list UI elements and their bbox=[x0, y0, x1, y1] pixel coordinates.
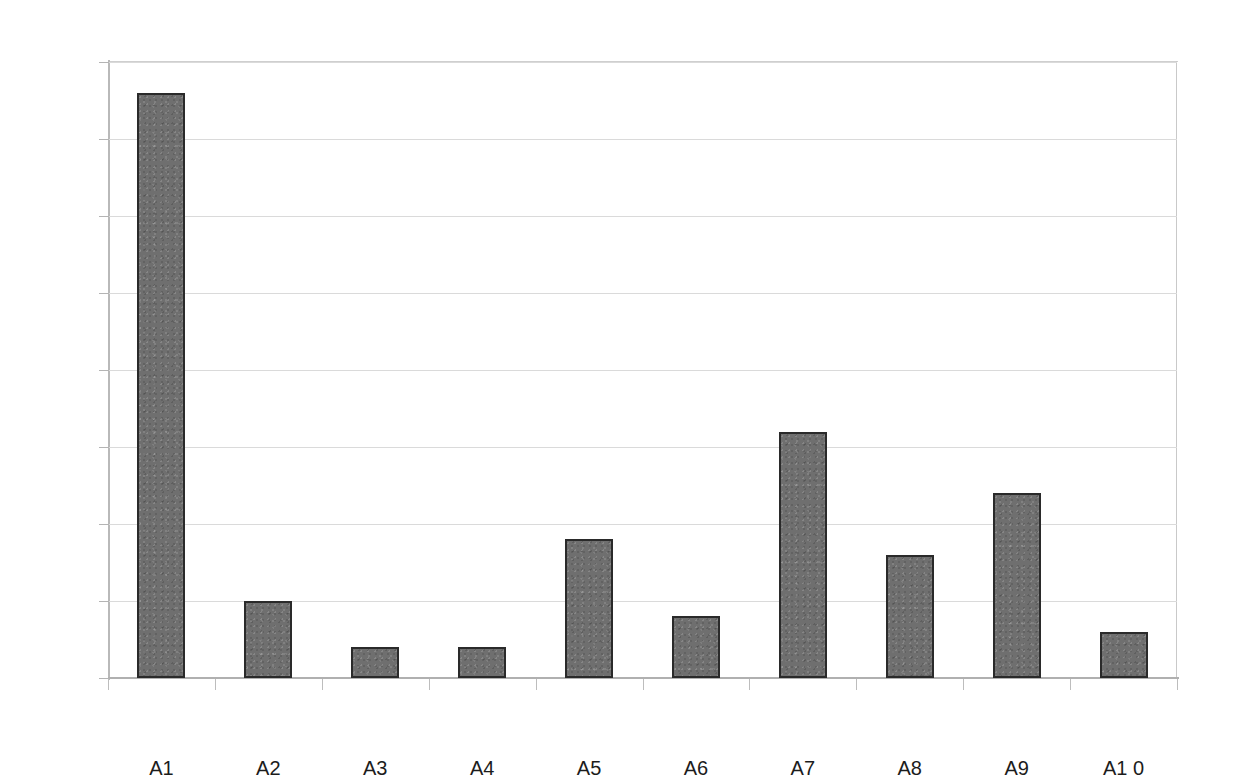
gridline bbox=[108, 370, 1177, 371]
bar bbox=[351, 647, 399, 678]
x-axis-tick bbox=[1177, 679, 1178, 690]
y-axis-tick bbox=[99, 447, 109, 448]
bar bbox=[458, 647, 506, 678]
y-axis-tick bbox=[99, 370, 109, 371]
x-axis-tick bbox=[215, 679, 216, 690]
x-axis-tick bbox=[536, 679, 537, 690]
gridline bbox=[108, 62, 1177, 63]
gridline bbox=[108, 139, 1177, 140]
x-axis-tick bbox=[108, 679, 109, 690]
x-axis-label: A5 bbox=[536, 758, 643, 778]
x-axis-label: A2 bbox=[215, 758, 322, 778]
x-axis-label: A8 bbox=[856, 758, 963, 778]
x-axis-label: A3 bbox=[322, 758, 429, 778]
bar bbox=[244, 601, 292, 678]
bar bbox=[1100, 632, 1148, 678]
x-axis-tick bbox=[322, 679, 323, 690]
y-axis-tick bbox=[99, 524, 109, 525]
x-axis-tick bbox=[429, 679, 430, 690]
y-axis-tick bbox=[99, 293, 109, 294]
x-axis-tick bbox=[643, 679, 644, 690]
plot-area: 0510152025303540A1A2A3A4A5A6A7A8A9A1 0 bbox=[108, 62, 1177, 678]
x-axis-label: A9 bbox=[963, 758, 1070, 778]
gridline bbox=[108, 216, 1177, 217]
bar bbox=[565, 539, 613, 678]
x-axis-tick bbox=[963, 679, 964, 690]
y-axis-tick bbox=[99, 601, 109, 602]
x-axis-label: A7 bbox=[749, 758, 856, 778]
bar bbox=[137, 93, 185, 678]
x-axis-label: A1 bbox=[108, 758, 215, 778]
bar bbox=[672, 616, 720, 678]
x-axis-tick bbox=[1070, 679, 1071, 690]
y-axis-tick bbox=[99, 62, 109, 63]
x-axis-label: A6 bbox=[643, 758, 750, 778]
y-axis-tick bbox=[99, 216, 109, 217]
x-axis-label: A1 0 bbox=[1070, 758, 1177, 778]
gridline bbox=[108, 447, 1177, 448]
bar bbox=[779, 432, 827, 678]
x-axis-tick bbox=[749, 679, 750, 690]
bar bbox=[886, 555, 934, 678]
gridline bbox=[108, 293, 1177, 294]
x-axis-tick bbox=[856, 679, 857, 690]
bar bbox=[993, 493, 1041, 678]
y-axis-tick bbox=[99, 139, 109, 140]
x-axis-label: A4 bbox=[429, 758, 536, 778]
